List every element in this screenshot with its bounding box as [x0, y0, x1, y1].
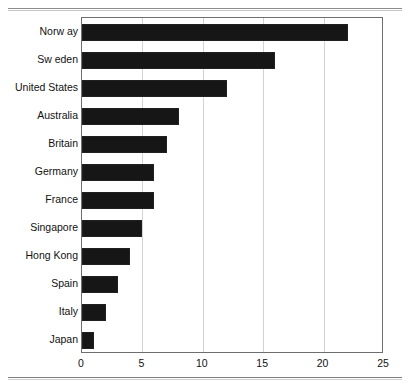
bar-fill [82, 164, 154, 181]
value-tick-label: 25 [377, 356, 389, 370]
plot-area [81, 17, 383, 353]
bar [82, 24, 348, 41]
category-label: United States [0, 79, 78, 96]
value-tick-label: 0 [78, 356, 84, 370]
category-label: Norw ay [0, 23, 78, 40]
bar-fill [82, 108, 179, 125]
bar [82, 332, 94, 349]
category-label: Sw eden [0, 51, 78, 68]
value-tick-label: 20 [317, 356, 329, 370]
bar-fill [82, 248, 130, 265]
bar [82, 136, 167, 153]
bar [82, 80, 227, 97]
bar-fill [82, 192, 154, 209]
bar [82, 164, 154, 181]
bar-fill [82, 136, 167, 153]
bar-fill [82, 80, 227, 97]
bar [82, 192, 154, 209]
category-label: Australia [0, 107, 78, 124]
category-label: Singapore [0, 219, 78, 236]
bar-fill [82, 52, 275, 69]
scanned-page: Norw aySw edenUnited StatesAustraliaBrit… [0, 0, 410, 389]
category-label: Italy [0, 303, 78, 320]
bar [82, 108, 179, 125]
bar [82, 276, 118, 293]
category-label: Hong Kong [0, 247, 78, 264]
bar [82, 220, 142, 237]
value-axis-labels: 0510152025 [0, 356, 410, 376]
category-label: Britain [0, 135, 78, 152]
bar-fill [82, 220, 142, 237]
bar [82, 52, 275, 69]
bar-fill [82, 304, 106, 321]
bar-fill [82, 276, 118, 293]
value-tick-label: 5 [138, 356, 144, 370]
category-label: Japan [0, 331, 78, 348]
page-rule-bottom-secondary [8, 379, 402, 380]
value-tick-label: 10 [196, 356, 208, 370]
bar [82, 304, 106, 321]
bar-fill [82, 332, 94, 349]
bar-chart: Norw aySw edenUnited StatesAustraliaBrit… [0, 0, 410, 389]
category-axis-labels: Norw aySw edenUnited StatesAustraliaBrit… [0, 17, 78, 353]
value-tick-label: 15 [256, 356, 268, 370]
category-label: Spain [0, 275, 78, 292]
category-label: France [0, 191, 78, 208]
bar-fill [82, 24, 348, 41]
bars-group [82, 18, 382, 352]
page-rule-bottom [8, 377, 402, 378]
bar [82, 248, 130, 265]
category-label: Germany [0, 163, 78, 180]
